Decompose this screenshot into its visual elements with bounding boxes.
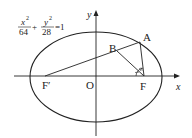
point-label-a: A — [143, 31, 151, 43]
ellipse-equation: x 2 64 + y 2 28 =1 — [18, 15, 65, 37]
point-label-b: B — [109, 42, 116, 54]
x-axis-arrow-icon — [174, 74, 180, 79]
segment-b-f — [117, 51, 144, 76]
eq-plus: + — [32, 22, 37, 32]
eq-term1-exponent: 2 — [26, 15, 29, 21]
y-axis-label: y — [86, 9, 92, 20]
eq-term1-numerator: x — [20, 17, 25, 27]
ellipse-diagram: A B F F′ O x y x 2 64 + y 2 28 =1 — [0, 0, 192, 138]
eq-term2-exponent: 2 — [49, 15, 52, 21]
point-label-f: F — [140, 80, 146, 92]
point-label-f-prime: F′ — [42, 79, 51, 91]
y-axis-arrow-icon — [94, 10, 99, 16]
eq-equals: =1 — [55, 22, 65, 32]
eq-term2-numerator: y — [43, 17, 48, 27]
angle-tick-1 — [135, 72, 139, 73]
angle-mark-1 — [136, 71, 138, 76]
eq-term1-denominator: 64 — [19, 27, 29, 37]
origin-label: O — [86, 79, 94, 91]
segment-a-f — [140, 42, 144, 76]
eq-term2-denominator: 28 — [42, 27, 52, 37]
x-axis-label: x — [175, 81, 181, 92]
